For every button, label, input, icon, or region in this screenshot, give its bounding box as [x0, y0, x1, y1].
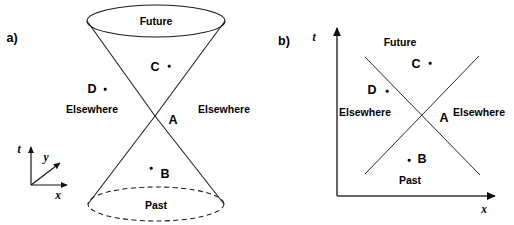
panel-b-axis-x-label: x — [481, 204, 487, 216]
panel-a-axis-x-label: x — [55, 190, 61, 202]
panel-a-event-a-label: A — [168, 114, 177, 127]
panel-a-elsewhere-left-label: Elsewhere — [66, 104, 118, 115]
panel-b-elsewhere-left-label: Elsewhere — [339, 107, 391, 118]
panel-a-event-b-label: B — [160, 168, 169, 181]
past-cone-left-edge — [88, 116, 155, 204]
panel-a-event-c-dot — [168, 65, 171, 68]
panel-b-past-label: Past — [399, 175, 421, 186]
axis-y-line-a — [31, 163, 60, 185]
panel-a-future-label: Future — [140, 16, 173, 27]
panel-b-tag: b) — [278, 35, 290, 48]
panel-a-tag: a) — [6, 32, 17, 45]
panel-b-event-b-label: B — [417, 153, 426, 166]
panel-b-event-a-label: A — [439, 112, 448, 125]
panel-a-event-d-dot — [104, 88, 107, 91]
light-cone-figure: a) Future Past Elsewhere Elsewhere A B C… — [0, 0, 514, 225]
panel-a-past-label: Past — [145, 200, 167, 211]
past-cone-right-edge — [155, 116, 224, 204]
panel-a-axis-triad — [31, 147, 67, 185]
panel-a-event-b-dot — [150, 167, 153, 170]
panel-b-event-b-dot — [408, 159, 411, 162]
panel-a-axis-y-label: y — [43, 152, 48, 164]
panel-b-event-c-label: C — [411, 58, 420, 71]
panel-a-event-c-label: C — [150, 61, 159, 74]
panel-a-elsewhere-right-label: Elsewhere — [198, 104, 250, 115]
panel-a-axis-t-label: t — [17, 144, 20, 156]
panel-b-event-c-dot — [429, 62, 432, 65]
panel-b-axis-t-label: t — [312, 32, 315, 44]
panel-b-elsewhere-right-label: Elsewhere — [453, 107, 505, 118]
panel-b-event-d-label: D — [367, 84, 376, 97]
panel-b-event-d-dot — [386, 90, 389, 93]
panel-b-future-label: Future — [384, 37, 417, 48]
panel-a-event-d-label: D — [87, 83, 96, 96]
